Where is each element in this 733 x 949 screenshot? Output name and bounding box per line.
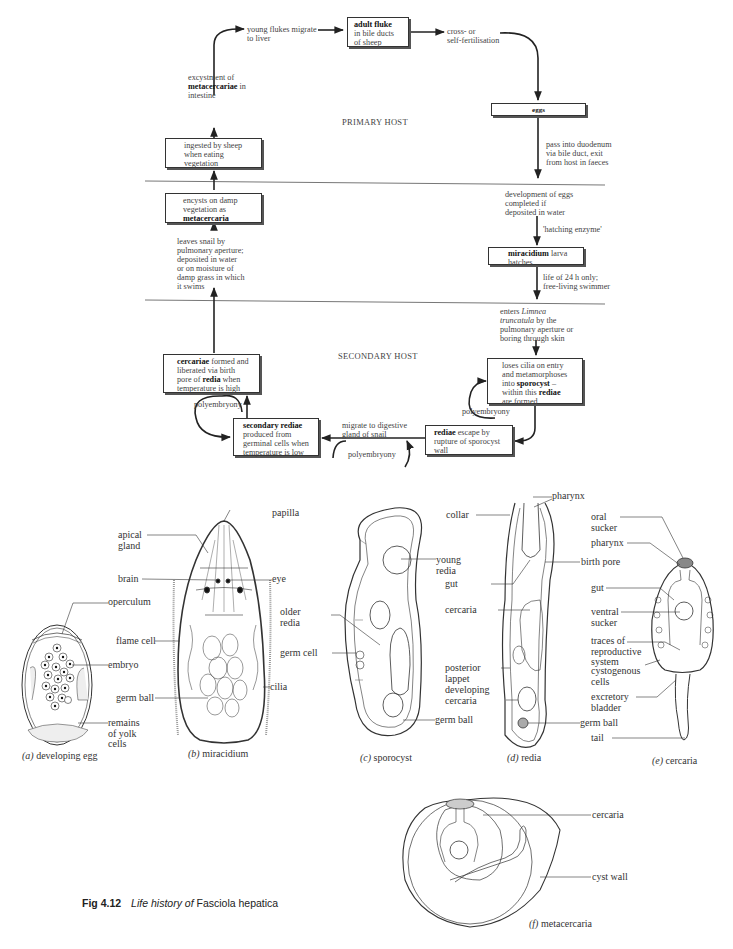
rediae-escape-title: rediae — [434, 428, 456, 437]
label-cyst-wall: cyst wall — [592, 872, 628, 883]
excystment-text: excystment of metacercariae in intestine — [188, 73, 246, 100]
caption-e-text: cercaria — [663, 755, 697, 766]
caption-e: (e) cercaria — [652, 755, 697, 766]
adult-fluke-box: adult fluke in bile ducts of sheep — [347, 17, 409, 47]
life-24h-text: life of 24 h only; free-living swimmer — [543, 273, 610, 291]
primary-host-label: PRIMARY HOST — [342, 117, 408, 127]
polyembryony-label-3: polyembryony — [194, 400, 242, 409]
label-eye: eye — [272, 574, 286, 585]
label-developing-cercaria: developing cercaria — [445, 685, 489, 706]
label-gut-e: gut — [591, 583, 604, 594]
secondary-host-label: SECONDARY HOST — [338, 351, 418, 361]
miracidium-drawing — [142, 510, 272, 743]
label-apical-gland: apical gland — [118, 530, 142, 551]
adult-fluke-title: adult fluke — [354, 20, 392, 29]
redia-term: redia — [202, 375, 220, 384]
label-ventral-sucker: ventral sucker — [591, 607, 619, 628]
caption-f-text: metacercaria — [538, 918, 592, 929]
label-cercaria-d: cercaria — [445, 605, 477, 616]
cercariae-term: cercariae — [177, 357, 209, 366]
label-birth-pore: birth pore — [581, 557, 620, 568]
label-cilia: cilia — [270, 682, 287, 693]
caption-a-text: developing egg — [34, 750, 98, 761]
figure-caption-italic: Life history of — [131, 897, 193, 909]
caption-c-text: sporocyst — [371, 752, 412, 763]
secondary-rediae-box: secondary rediae produced from germinal … — [233, 418, 319, 456]
excystment-pre: excystment of — [188, 73, 234, 82]
label-tail: tail — [591, 733, 604, 744]
metacercaria-drawing — [403, 798, 591, 927]
loses-cilia-post: are formed — [502, 397, 538, 406]
caption-d-text: redia — [519, 752, 542, 763]
secondary-rediae-desc: produced from germinal cells when temper… — [243, 430, 309, 457]
cercariae-formed-box: cercariae formed and liberated via birth… — [163, 354, 260, 393]
caption-a: (a) developing egg — [22, 750, 98, 761]
development-eggs-text: development of eggs completed if deposit… — [505, 190, 573, 217]
ingested-desc: ingested by sheep when eating vegetation — [184, 141, 242, 168]
migrate-digestive-text: migrate to digestive gland of snail — [342, 421, 407, 439]
caption-d-letter: (d) — [507, 752, 519, 763]
label-older-redia: older redia — [280, 607, 301, 628]
label-flame-cell: flame cell — [116, 636, 156, 647]
enters-pre: enters — [500, 307, 522, 316]
figure-caption-species: Fasciola hepatica — [194, 897, 279, 909]
leaves-snail-text: leaves snail by pulmonary aperture; depo… — [177, 237, 245, 291]
secondary-rediae-title: secondary rediae — [243, 421, 302, 430]
label-gut-d: gut — [445, 579, 458, 590]
label-germ-cell: germ cell — [280, 648, 317, 659]
redia-drawing — [476, 497, 580, 747]
miracidium-box: miracidium larva hatches — [488, 247, 584, 265]
encysts-box: encysts on damp vegetation as metacercar… — [165, 193, 262, 223]
polyembryony-label-2: polyembryony — [348, 450, 396, 459]
label-pharynx-e: pharynx — [591, 538, 624, 549]
label-oral-sucker: oral sucker — [591, 512, 617, 533]
egg-drawing — [22, 603, 108, 745]
figure-number: Fig 4.12 — [82, 897, 121, 909]
label-germ-ball-b: germ ball — [116, 693, 154, 704]
label-papilla: papilla — [272, 508, 299, 519]
label-cercaria-f: cercaria — [592, 810, 624, 821]
label-germ-ball-c: germ ball — [435, 715, 473, 726]
metacercariae-term: metacercariae — [188, 82, 237, 91]
caption-c-letter: (c) — [360, 752, 371, 763]
eggs-title: eggs — [532, 106, 545, 114]
label-brain: brain — [118, 574, 139, 585]
sporocyst-term: sporocyst — [517, 379, 550, 388]
caption-b-letter: (b) — [188, 748, 200, 759]
caption-d: (d) redia — [507, 752, 541, 763]
caption-b-text: miracidium — [200, 748, 249, 759]
sporocyst-box: loses cilia on entry and metamorphoses i… — [487, 358, 583, 404]
label-young-redia: young redia — [436, 555, 461, 576]
label-operculum: operculum — [108, 597, 151, 608]
miracidium-title: miracidium — [508, 249, 549, 258]
young-flukes-text: young flukes migrate to liver — [247, 25, 317, 43]
label-posterior-lappet: posterior lappet — [445, 663, 481, 684]
rediae-escape-box: rediae escape by rupture of sporocyst wa… — [425, 425, 513, 455]
caption-f: (f) metacercaria — [529, 918, 592, 929]
caption-a-letter: (a) — [22, 750, 34, 761]
label-remains-yolk: remains of yolk cells — [108, 718, 140, 750]
label-cystogenous-cells: cystogenous cells — [591, 666, 640, 687]
hatching-enzyme-text: 'hatching enzyme' — [543, 225, 602, 234]
label-germ-ball-d: germ ball — [580, 718, 618, 729]
caption-c: (c) sporocyst — [360, 752, 412, 763]
label-collar: collar — [446, 510, 469, 521]
label-excretory-bladder: excretory bladder — [591, 692, 629, 713]
polyembryony-label-1: polyembryony — [462, 407, 510, 416]
caption-e-letter: (e) — [652, 755, 663, 766]
sporocyst-drawing — [331, 508, 436, 736]
caption-b: (b) miracidium — [188, 748, 248, 759]
figure-caption: Fig 4.12Life history of Fasciola hepatic… — [82, 897, 278, 909]
pass-duodenum-text: pass into duodenum via bile duct, exit f… — [546, 140, 612, 167]
eggs-box: eggs — [491, 103, 586, 116]
cross-fertilisation-text: cross- or self-fertilisation — [447, 27, 499, 45]
diagram-lines — [0, 0, 733, 949]
adult-fluke-desc: in bile ducts of sheep — [354, 29, 394, 47]
label-embryo: embryo — [108, 660, 139, 671]
label-pharynx-d: pharynx — [552, 491, 585, 502]
ingested-box: ingested by sheep when eating vegetation — [165, 138, 262, 168]
encysts-desc: encysts on damp vegetation as — [183, 196, 238, 214]
rediae-term: rediae — [539, 388, 561, 397]
enters-limnea-text: enters Limnea truncatula by the pulmonar… — [500, 307, 573, 343]
metacercaria-term: metacercaria — [183, 214, 229, 223]
